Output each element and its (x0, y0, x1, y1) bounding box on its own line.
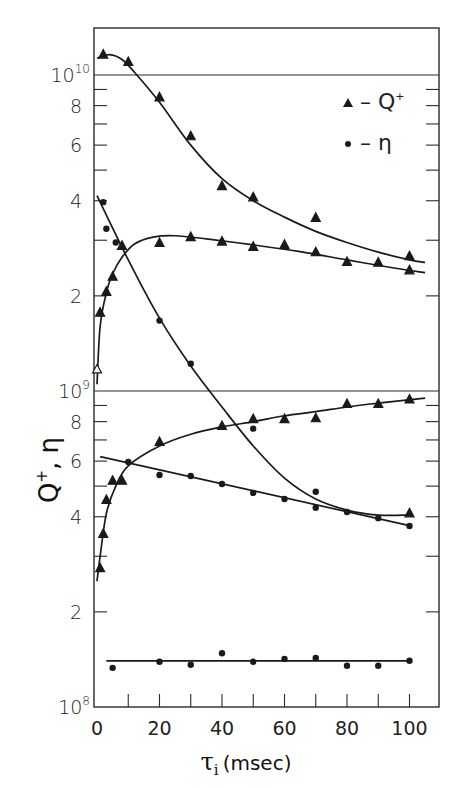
circle-point (281, 656, 287, 662)
x-axis-title: τi(msec) (201, 748, 292, 779)
y-axis-title: Q+, η (33, 437, 64, 503)
triangle-point (108, 476, 117, 485)
x-title-unit: (msec) (223, 751, 292, 775)
x-tick-labels: 020406080100 (91, 717, 428, 739)
triangle-point (99, 50, 108, 59)
y-title-sup: + (33, 470, 51, 483)
y-title-q: Q (34, 483, 64, 503)
y-tick-label: 8 (70, 411, 82, 433)
x-tick-label: 60 (272, 717, 296, 739)
triangle-point (186, 131, 195, 140)
y-tick-label: 6 (70, 450, 82, 472)
y-tick-label: 4 (70, 190, 82, 212)
circle-point (156, 659, 162, 665)
circle-point (219, 481, 225, 487)
triangle-point (108, 272, 117, 281)
triangle-point (102, 287, 111, 296)
circle-point (313, 505, 319, 511)
circle-point (406, 658, 412, 664)
triangle-point (155, 92, 164, 101)
triangle-point (311, 213, 320, 222)
svg-text:τi(msec): τi(msec) (201, 748, 292, 779)
circle-point (344, 663, 350, 669)
circle-point (219, 650, 225, 656)
triangle-point (405, 508, 414, 517)
circle-point (313, 655, 319, 661)
triangle-point (96, 563, 105, 572)
circle-point (100, 199, 106, 205)
y-tick-labels: 108246810924681010 (51, 62, 90, 718)
y-tick-label: 8 (70, 95, 82, 117)
x-tick-label: 100 (391, 717, 427, 739)
circle-point (113, 239, 119, 245)
axis-ticks (94, 89, 439, 707)
triangle-point (218, 421, 227, 430)
circle-point (344, 509, 350, 515)
circle-point (188, 662, 194, 668)
triangle-point (99, 529, 108, 538)
circle-point (250, 490, 256, 496)
triangle-point (249, 414, 258, 423)
circle-point (281, 496, 287, 502)
y-title-rest: , η (34, 437, 64, 470)
decade-lines (94, 75, 439, 391)
circle-point (156, 472, 162, 478)
y-tick-label: 108 (58, 694, 90, 718)
x-tick-label: 80 (335, 717, 359, 739)
x-tick-label: 20 (147, 717, 171, 739)
legend-eta-label: – η (360, 130, 392, 155)
x-tick-label: 40 (210, 717, 234, 739)
triangle-point (311, 413, 320, 422)
circle-point (188, 473, 194, 479)
circle-point (125, 459, 131, 465)
circle-point (109, 665, 115, 671)
log-scale-scatter-chart: 108246810924681010 020406080100 – Q+ – η… (0, 0, 457, 787)
fitted-curve (97, 236, 425, 385)
triangle-point (311, 247, 320, 256)
triangle-point (374, 258, 383, 267)
circle-marker-icon (345, 141, 351, 147)
y-tick-label: 6 (70, 134, 82, 156)
y-tick-label: 2 (70, 285, 82, 307)
y-tick-label: 4 (70, 506, 82, 528)
circle-point (250, 425, 256, 431)
triangle-point (280, 240, 289, 249)
fitted-curve (97, 55, 425, 263)
svg-text:Q+, η: Q+, η (33, 437, 64, 503)
triangle-point (102, 495, 111, 504)
legend: – Q+ – η (343, 89, 405, 155)
y-tick-label: 2 (70, 601, 82, 623)
x-title-tau: τ (201, 748, 214, 776)
circle-point (250, 659, 256, 665)
fitted-curve (97, 398, 425, 581)
circle-point (313, 489, 319, 495)
y-tick-label: 1010 (51, 62, 90, 86)
circle-point (375, 515, 381, 521)
legend-q-label: – Q+ (360, 89, 405, 114)
x-tick-label: 0 (91, 717, 103, 739)
triangle-point (155, 437, 164, 446)
circle-point (375, 663, 381, 669)
circle-point (103, 226, 109, 232)
triangle-marker-icon (343, 98, 353, 107)
circle-point (188, 361, 194, 367)
triangle-point (249, 192, 258, 201)
y-tick-label: 109 (58, 378, 90, 402)
circle-point (156, 317, 162, 323)
triangle-point (343, 399, 352, 408)
circle-point (406, 523, 412, 529)
x-title-sub: i (214, 761, 219, 779)
triangle-point (405, 251, 414, 260)
triangle-point (155, 238, 164, 247)
